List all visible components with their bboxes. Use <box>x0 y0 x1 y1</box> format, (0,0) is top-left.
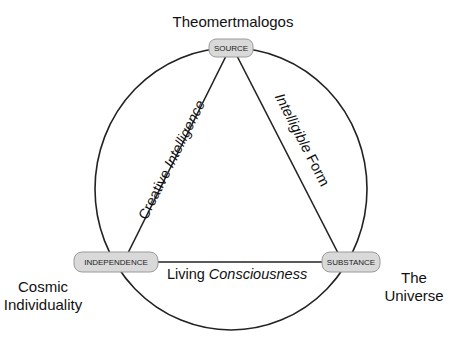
caption-the: The <box>401 269 427 286</box>
edge-label-plain: Form <box>301 148 333 189</box>
node-source-label: SOURCE <box>214 44 248 53</box>
node-substance: SUBSTANCE <box>322 252 380 272</box>
node-substance-label: SUBSTANCE <box>327 258 375 267</box>
caption-individuality: Individuality <box>4 296 83 313</box>
edge-label-plain: Creative <box>135 163 175 222</box>
edge-label-intelligible-form: Intelligible Form <box>272 91 333 189</box>
edge-label-italic: Intelligence <box>161 97 208 170</box>
edge-label-living-consciousness: Living Consciousness <box>167 266 307 282</box>
edge-label-creative-intelligence: Creative Intelligence <box>135 97 208 222</box>
caption-universe: Universe <box>384 287 443 304</box>
edge-label-italic: Intelligible <box>272 91 316 156</box>
node-independence: INDEPENDENCE <box>74 252 158 272</box>
node-independence-label: INDEPENDENCE <box>84 258 148 267</box>
node-source: SOURCE <box>209 39 253 57</box>
enclosing-circle <box>95 48 367 330</box>
edge-label-plain: Living <box>167 266 209 282</box>
edge-label-italic: Consciousness <box>209 266 307 282</box>
caption-theomertmalogos: Theomertmalogos <box>173 13 294 30</box>
trinity-diagram: SOURCE INDEPENDENCE SUBSTANCE Theomertma… <box>0 0 456 343</box>
caption-cosmic: Cosmic <box>18 278 69 295</box>
